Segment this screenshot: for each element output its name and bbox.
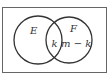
set-e-label: E <box>29 25 38 36</box>
venn-diagram: E F k m − k <box>0 0 112 77</box>
intersection-label: k <box>52 38 58 49</box>
f-only-label: m − k <box>61 38 91 49</box>
set-f-label: F <box>69 23 78 34</box>
